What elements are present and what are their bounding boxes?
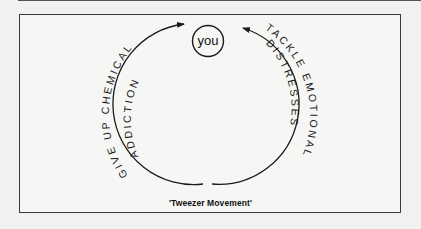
diagram-caption: 'Tweezer Movement' [0,198,421,208]
left-inner-label: ADDICTION [121,76,142,160]
you-label: you [198,33,219,48]
tweezer-diagram: you GIVE UP CHEMICAL ADDICTION TACKLE EM… [0,0,421,229]
